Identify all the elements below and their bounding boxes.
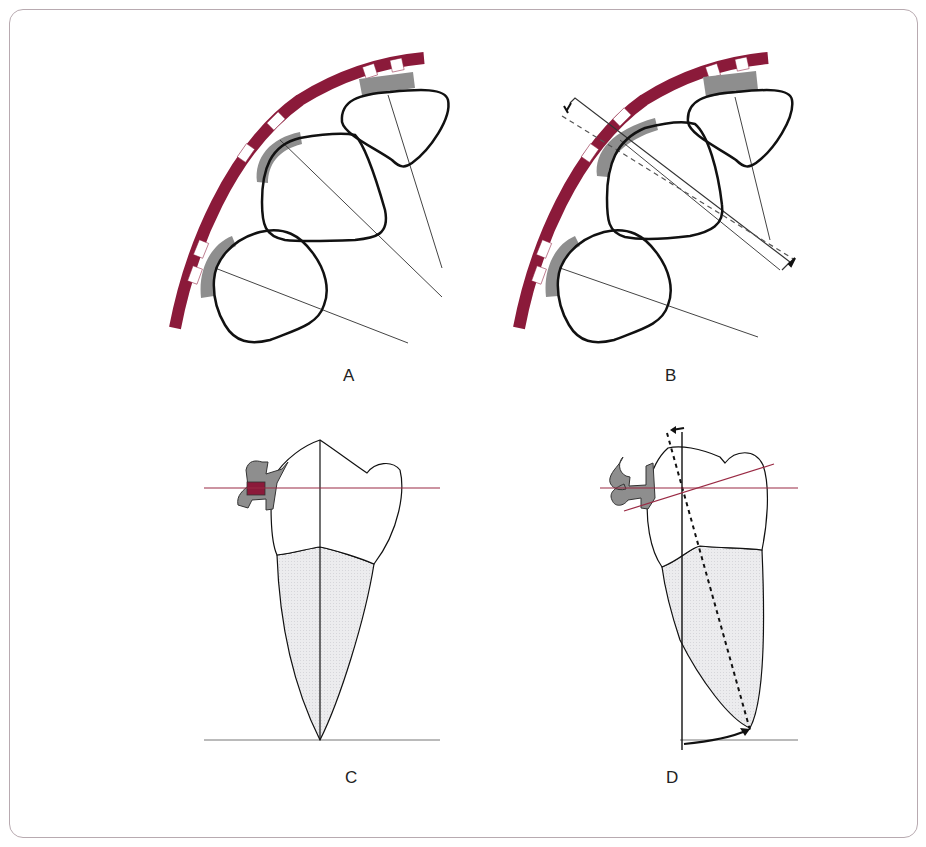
tooth-outlines: [214, 90, 449, 342]
panel-b: B: [519, 57, 795, 385]
panel-label: A: [343, 366, 355, 385]
tooth-outlines: [558, 90, 792, 342]
tooth-root: [277, 547, 374, 740]
panel-label: D: [666, 768, 678, 787]
panel-d: D: [600, 426, 798, 787]
panel-label: B: [665, 366, 676, 385]
arrow-icon: [670, 426, 676, 434]
rotation-guide: [562, 98, 795, 270]
tooth: [558, 230, 671, 342]
tooth-root: [662, 546, 764, 728]
tooth: [688, 90, 792, 166]
bracket: [610, 457, 655, 509]
tooth: [214, 230, 327, 342]
tooth-crown: [271, 440, 402, 564]
rotation-arrow-icon: [684, 730, 748, 744]
arrow-icon: [564, 103, 571, 113]
diagram-canvas: A B: [0, 0, 926, 847]
panel-label: C: [345, 768, 357, 787]
tooth: [262, 134, 386, 241]
panel-a: A: [175, 58, 448, 385]
panel-c: C: [204, 440, 440, 787]
arrow-icon: [789, 258, 795, 266]
